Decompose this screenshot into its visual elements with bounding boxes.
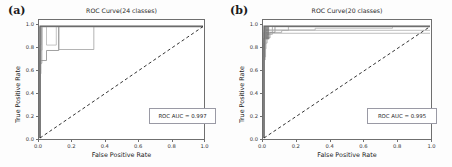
- panel-b-ytick-mark: [260, 70, 262, 71]
- panel-b-ytick-mark: [260, 47, 262, 48]
- panel-b-ytick-label: 0.0: [246, 136, 258, 142]
- panel-a: (a) ROC Curve(24 classes): [0, 0, 226, 167]
- panel-b-ytick-mark: [260, 116, 262, 117]
- panel-b-legend: ROC AUC = 0.995: [367, 108, 437, 124]
- panel-a-tag: (a): [8, 4, 26, 17]
- panel-b-xtick-label: 0.2: [292, 143, 300, 149]
- panel-b-xtick-label: 0.6: [359, 143, 367, 149]
- panel-b-xtick-mark: [262, 140, 263, 142]
- panel-a-ytick-mark: [36, 24, 38, 25]
- panel-a-ytick-mark: [36, 70, 38, 71]
- panel-a-xtick-mark: [105, 140, 106, 142]
- panel-a-x-axis-label: False Positive Rate: [38, 151, 205, 159]
- panel-a-xtick-label: 0.8: [167, 143, 175, 149]
- panel-b-tag: (b): [230, 4, 248, 17]
- panel-b-ytick-label: 0.2: [246, 113, 258, 119]
- panel-b: (b) ROC Curve(20 classes): [226, 0, 452, 167]
- panel-a-ytick-label: 0.4: [22, 90, 34, 96]
- panel-a-xtick-label: 0.0: [34, 143, 42, 149]
- panel-b-xtick-mark: [431, 140, 432, 142]
- panel-a-xtick-mark: [172, 140, 173, 142]
- panel-b-ytick-mark: [260, 93, 262, 94]
- panel-b-legend-text: ROC AUC = 0.995: [378, 113, 426, 119]
- panel-b-xtick-mark: [363, 140, 364, 142]
- panel-b-ytick-label: 1.0: [246, 21, 258, 27]
- panel-b-ytick-label: 0.6: [246, 67, 258, 73]
- panel-a-ytick-mark: [36, 47, 38, 48]
- panel-a-title: ROC Curve(24 classes): [38, 7, 205, 14]
- panel-b-ytick-label: 0.8: [246, 44, 258, 50]
- panel-a-xtick-label: 0.4: [101, 143, 109, 149]
- panel-a-legend: ROC AUC = 0.997: [149, 108, 216, 124]
- panel-b-ytick-label: 0.4: [246, 90, 258, 96]
- panel-a-ytick-mark: [36, 139, 38, 140]
- panel-a-ytick-label: 0.6: [22, 67, 34, 73]
- panel-b-ytick-mark: [260, 24, 262, 25]
- panel-b-x-axis-label: False Positive Rate: [262, 151, 432, 159]
- panel-b-xtick-mark: [330, 140, 331, 142]
- panel-b-ytick-mark: [260, 139, 262, 140]
- panel-a-ytick-label: 0.0: [22, 136, 34, 142]
- panel-a-xtick-label: 1.0: [200, 143, 208, 149]
- panel-a-ytick-label: 1.0: [22, 21, 34, 27]
- panel-a-legend-text: ROC AUC = 0.997: [158, 113, 206, 119]
- panel-a-xtick-mark: [38, 140, 39, 142]
- panel-b-xtick-label: 1.0: [427, 143, 435, 149]
- panel-a-xtick-label: 0.6: [134, 143, 142, 149]
- panel-a-xtick-mark: [138, 140, 139, 142]
- panel-a-ytick-label: 0.2: [22, 113, 34, 119]
- panel-b-xtick-mark: [296, 140, 297, 142]
- roc-curve-figure: (a) ROC Curve(24 classes): [0, 0, 452, 167]
- panel-a-ytick-mark: [36, 93, 38, 94]
- panel-b-y-axis-label: True Positive Rate: [238, 66, 246, 123]
- panel-a-ytick-label: 0.8: [22, 44, 34, 50]
- panel-b-xtick-mark: [397, 140, 398, 142]
- panel-a-y-axis-label: True Positive Rate: [14, 66, 22, 123]
- panel-b-title: ROC Curve(20 classes): [262, 7, 432, 14]
- panel-b-xtick-label: 0.4: [325, 143, 333, 149]
- panel-a-ytick-mark: [36, 116, 38, 117]
- panel-b-xtick-label: 0.0: [258, 143, 266, 149]
- panel-b-xtick-label: 0.8: [393, 143, 401, 149]
- panel-a-xtick-mark: [71, 140, 72, 142]
- panel-a-xtick-mark: [204, 140, 205, 142]
- panel-a-xtick-label: 0.2: [67, 143, 75, 149]
